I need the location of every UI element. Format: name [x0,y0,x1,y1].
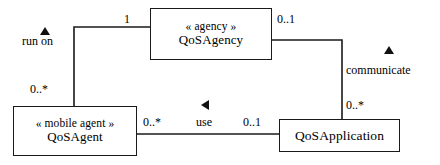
direction-triangle-left-icon-use [201,100,209,110]
multiplicity-communicate-application: 0..* [346,98,364,113]
uml-class-diagram: « agency » QoSAgency « mobile agent » Qo… [0,0,440,165]
direction-triangle-up-icon-communicate [384,46,394,54]
multiplicity-run-on-agency: 1 [124,12,130,27]
multiplicity-run-on-agent: 0..* [30,82,48,97]
multiplicity-communicate-agency: 0..1 [277,12,295,27]
class-box-qos-application[interactable]: QoSApplication [279,119,400,152]
class-box-qos-agent[interactable]: « mobile agent » QoSAgent [13,106,137,156]
class-name-qos-agency: QoSAgency [179,33,243,48]
multiplicity-use-agent: 0..* [143,115,161,130]
association-label-use: use [196,115,212,130]
class-box-qos-agency[interactable]: « agency » QoSAgency [150,8,272,60]
multiplicity-use-application: 0..1 [243,115,261,130]
association-line-communicate [272,40,342,119]
class-name-qos-application: QoSApplication [295,128,384,143]
association-label-communicate: communicate [346,63,411,78]
association-label-run-on: run on [22,34,53,49]
class-name-qos-agent: QoSAgent [47,130,103,145]
association-line-run-on [74,27,150,106]
